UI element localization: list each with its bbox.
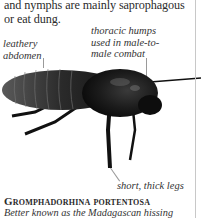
- hissing-cockroach-illustration: [0, 60, 201, 180]
- label-leathery-abdomen: leathery abdomen: [3, 38, 53, 61]
- species-name: Gromphadorhina portentosa: [4, 195, 150, 207]
- column-rule: [195, 0, 196, 218]
- label-thoracic-humps: thoracic humps used in male-to-male comb…: [91, 25, 163, 60]
- label-short-thick-legs: short, thick legs: [117, 180, 184, 192]
- species-description: Better known as the Madagascan hissing: [4, 207, 173, 218]
- body-paragraph: and nymphs are mainly saprophagous or ea…: [4, 0, 192, 26]
